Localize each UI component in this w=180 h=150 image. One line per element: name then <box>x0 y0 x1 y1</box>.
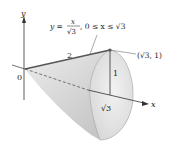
x-axis-label: x <box>151 100 156 109</box>
x-axis-arrow-icon <box>142 101 149 106</box>
base-distance-label: √3 <box>101 104 111 113</box>
y-axis <box>22 16 26 100</box>
x-axis-back <box>12 65 25 69</box>
equation: y = x √3 , 0 ≤ x ≤ √3 <box>49 18 126 36</box>
equation-denominator: √3 <box>67 28 76 36</box>
origin-label: 0 <box>17 73 22 82</box>
height-label: 1 <box>113 69 118 78</box>
equation-lhs: y = <box>49 22 63 31</box>
y-axis-label: y <box>20 9 26 18</box>
equation-domain: , 0 ≤ x ≤ √3 <box>80 22 126 31</box>
equation-numerator: x <box>71 18 75 26</box>
slant-length-label: 2 <box>67 51 72 60</box>
cone-diagram: y x 0 2 1 √3 (√3, 1) y = x √3 , 0 ≤ x ≤ … <box>0 0 180 150</box>
point-label: (√3, 1) <box>137 51 162 60</box>
equation-leader <box>90 35 97 54</box>
